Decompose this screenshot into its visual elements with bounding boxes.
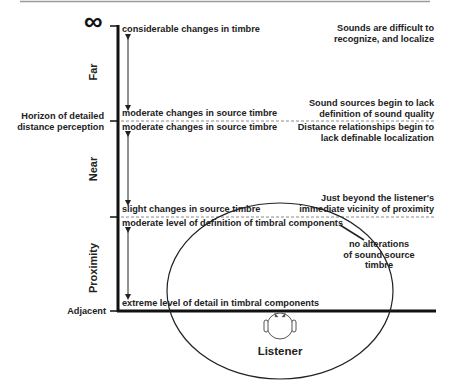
timbre-note-far-bottom: moderate changes in source timbre bbox=[122, 108, 277, 119]
timbre-note-far-top: considerable changes in timbre bbox=[122, 24, 260, 35]
listener-head-icon bbox=[264, 313, 296, 339]
ellipse-note: no alterations of sound source timbre bbox=[334, 239, 424, 271]
right-note-proximity-line1: Just beyond the listener's bbox=[240, 193, 434, 204]
right-note-horizon-below-line2: lack definable localization bbox=[260, 133, 434, 144]
listener-label: Listener bbox=[250, 345, 310, 357]
zone-label-far: Far bbox=[87, 57, 99, 87]
right-note-horizon-above-line1: Sound sources begin to lack bbox=[260, 98, 434, 109]
note-pointer-line bbox=[340, 225, 364, 240]
timbre-note-near-top: moderate changes in source timbre bbox=[122, 122, 277, 133]
horizon-label-line1: Horizon of detailed bbox=[0, 111, 104, 122]
ellipse-note-line1: no alterations bbox=[334, 239, 424, 250]
timbre-note-proximity-top: moderate level of definition of timbral … bbox=[122, 218, 343, 229]
adjacent-label: Adjacent bbox=[40, 306, 106, 317]
timbre-note-proximity-bottom: extreme level of detail in timbral compo… bbox=[122, 298, 319, 309]
right-note-far: Sounds are difficult to recognize, and l… bbox=[260, 23, 434, 45]
zone-label-proximity: Proximity bbox=[87, 238, 99, 298]
right-note-far-line2: recognize, and localize bbox=[260, 34, 434, 45]
right-note-horizon-below-line1: Distance relationships begin to bbox=[260, 122, 434, 133]
right-note-horizon-above-line2: definition of sound quality bbox=[260, 109, 434, 120]
ellipse-note-line3: timbre bbox=[334, 260, 424, 271]
horizon-label: Horizon of detailed distance perception bbox=[0, 111, 104, 133]
infinity-symbol: ∞ bbox=[84, 8, 103, 34]
right-note-far-line1: Sounds are difficult to bbox=[260, 23, 434, 34]
horizon-label-line2: distance perception bbox=[0, 122, 104, 133]
right-note-proximity-line2: immediate vicinity of proximity bbox=[240, 204, 434, 215]
right-note-horizon-below: Distance relationships begin to lack def… bbox=[260, 122, 434, 144]
zone-label-near: Near bbox=[87, 150, 99, 188]
right-note-proximity: Just beyond the listener's immediate vic… bbox=[240, 193, 434, 215]
ellipse-note-line2: of sound source bbox=[334, 250, 424, 261]
right-note-horizon-above: Sound sources begin to lack definition o… bbox=[260, 98, 434, 120]
